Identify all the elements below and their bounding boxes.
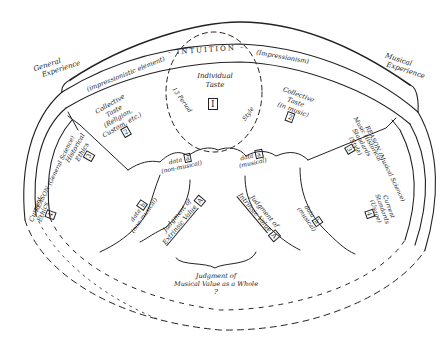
intuition-left-label: (impressionistic element) bbox=[86, 55, 167, 94]
question-mark: ? bbox=[166, 288, 266, 296]
style-arc-label: Style bbox=[240, 105, 255, 122]
region-current-ethics: CurrentEthics 4 bbox=[27, 196, 58, 229]
region-judgment-extrinsic: Judgment of Extrinsic Value A bbox=[155, 190, 206, 247]
intuition-center-label: - INTUITION - bbox=[168, 43, 245, 56]
region-data-b-nonmusical: data b (non-musical) bbox=[123, 192, 158, 234]
individual-taste-box: I bbox=[208, 98, 218, 110]
region-collective-taste-right: CollectiveTaste(in music) 2 bbox=[274, 85, 316, 126]
region-current-standards: CurrentStandards(Usage) 4 bbox=[361, 191, 398, 230]
region-data-b-musical: data b (musical) bbox=[296, 201, 324, 232]
box-2-right: 2 bbox=[285, 111, 296, 123]
region-collective-taste-left: CollectiveTaste(Religion,Custom, etc.) 2 bbox=[89, 90, 147, 147]
region-data-a-nonmusical: data a (non-musical) bbox=[159, 152, 202, 174]
intuition-right-label: (Impressionism) bbox=[256, 48, 310, 65]
box-4-left: 4 bbox=[44, 209, 56, 220]
region-judgment-intrinsic: Judgment of Intrinsic Value A bbox=[236, 186, 286, 241]
box-3-left: 3 bbox=[83, 150, 96, 162]
bottom-judgment-label: Judgment of Musical Value as a Whole ? bbox=[166, 272, 266, 296]
general-experience-label: General Experience bbox=[33, 51, 82, 80]
individual-taste-label: Individual Taste bbox=[190, 72, 240, 90]
region-data-a-musical: data a (musical) bbox=[237, 149, 267, 169]
musical-experience-label: Musical Experience bbox=[382, 52, 429, 81]
box-2-left: 2 bbox=[120, 125, 132, 138]
